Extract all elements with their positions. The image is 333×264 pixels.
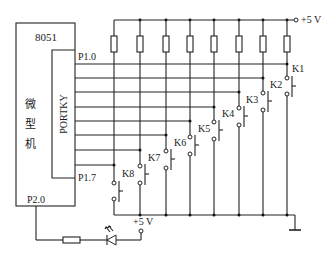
- resistor-icon: [260, 36, 266, 52]
- switch-k3-label: K3: [246, 94, 258, 105]
- switch-k7-label: K7: [148, 152, 160, 163]
- mcu-side-char-3: 机: [25, 137, 36, 150]
- pin-p2-0-label: P2.0: [27, 194, 45, 205]
- switch-k3: K3: [237, 94, 258, 215]
- supply-terminal-top: [294, 18, 298, 22]
- switch-k2: K2: [261, 79, 282, 215]
- circuit-diagram: 8051 微 型 机 PORTKY P1.0 P1.7 P2.0 +5 V: [0, 0, 333, 264]
- portky-label: PORTKY: [58, 94, 69, 133]
- switch-k6: K6: [164, 137, 186, 215]
- supply-top-label: +5 V: [301, 14, 322, 25]
- switch-k7: K7: [138, 152, 160, 215]
- pin-p1-7-label: P1.7: [78, 172, 96, 183]
- switch-k5-label: K5: [198, 123, 210, 134]
- led-branch: +5 V: [36, 206, 154, 245]
- port-row-wires: [75, 63, 289, 167]
- switch-k6-label: K6: [174, 137, 186, 148]
- resistor-icon: [211, 36, 217, 52]
- switches: K1 K2 K3: [112, 63, 304, 215]
- switch-k1-label: K1: [292, 63, 304, 74]
- switch-k8: K8: [112, 168, 134, 215]
- mcu-label: 8051: [35, 31, 57, 43]
- led-icon: [105, 226, 116, 245]
- led-supply-label: +5 V: [133, 216, 154, 227]
- resistor-icon: [111, 36, 117, 52]
- resistor-icon: [137, 36, 143, 52]
- switch-k5: K5: [188, 123, 210, 215]
- switch-k8-label: K8: [122, 168, 134, 179]
- mcu-side-char-1: 微: [25, 97, 36, 110]
- resistor-icon: [284, 36, 290, 52]
- mcu-8051-block: 8051 微 型 机 PORTKY P1.0 P1.7 P2.0: [16, 23, 96, 206]
- led-resistor-icon: [63, 237, 80, 243]
- resistor-icon: [163, 36, 169, 52]
- resistor-icon: [187, 36, 193, 52]
- resistor-icon: [236, 36, 242, 52]
- led-supply-terminal: [139, 229, 143, 233]
- switch-k1: K1: [285, 63, 304, 215]
- switch-k4: K4: [212, 108, 234, 215]
- top-supply-rail: +5 V: [114, 14, 322, 25]
- switch-k2-label: K2: [270, 79, 282, 90]
- pin-p1-0-label: P1.0: [78, 51, 96, 62]
- switch-k4-label: K4: [222, 108, 234, 119]
- mcu-side-char-2: 型: [25, 117, 36, 130]
